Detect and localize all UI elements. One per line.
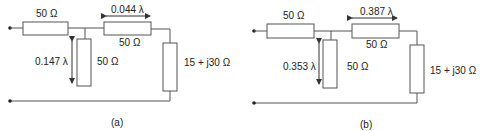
circuit-b <box>252 18 424 105</box>
stub-impedance-label-b: 50 Ω <box>347 61 369 72</box>
series-resistor-a <box>23 22 68 35</box>
transmission-line-a <box>104 22 151 35</box>
line-length-label-b: 0.387 λ <box>360 6 393 17</box>
input-terminal-bottom-b <box>252 101 256 105</box>
stub-a <box>77 39 91 86</box>
load-a <box>163 43 177 91</box>
load-b <box>410 45 424 93</box>
stub-length-label-a: 0.147 λ <box>35 56 68 67</box>
series-resistor-label-b: 50 Ω <box>283 10 305 21</box>
line-length-label-a: 0.044 λ <box>111 4 144 15</box>
stub-length-label-b: 0.353 λ <box>283 61 316 72</box>
load-label-b: 15 + j30 Ω <box>430 65 477 76</box>
stub-impedance-label-a: 50 Ω <box>97 56 119 67</box>
transmission-line-b <box>352 24 399 38</box>
caption-b: (b) <box>360 119 372 130</box>
line-impedance-label-b: 50 Ω <box>366 39 388 50</box>
series-resistor-label-a: 50 Ω <box>36 8 58 19</box>
stub-b <box>323 40 337 88</box>
load-label-a: 15 + j30 Ω <box>184 57 231 68</box>
input-terminal-bottom-a <box>8 99 12 103</box>
circuit-a <box>8 16 177 103</box>
series-resistor-b <box>267 24 314 38</box>
line-impedance-label-a: 50 Ω <box>119 37 141 48</box>
caption-a: (a) <box>111 117 123 128</box>
